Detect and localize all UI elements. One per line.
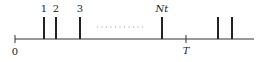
origin-label: 0 xyxy=(12,46,18,57)
event-label-2: 2 xyxy=(53,3,59,14)
timeline-diagram: 1 2 3 Nt 0 T xyxy=(0,0,268,62)
event-label-3: 3 xyxy=(77,3,83,14)
event-label-1: 1 xyxy=(41,3,47,14)
event-label-Nt: Nt xyxy=(155,3,170,14)
T-label: T xyxy=(183,45,191,56)
